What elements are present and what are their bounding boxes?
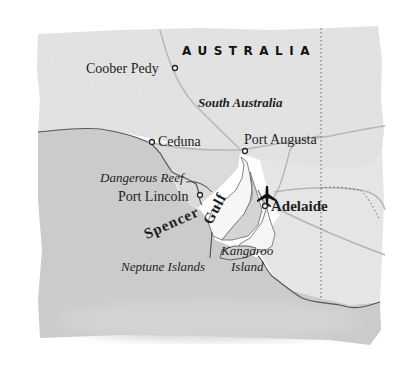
city-label-ceduna: Ceduna (158, 135, 201, 149)
circle-icon-port-augusta (243, 149, 248, 154)
feature-label-dangerous-reef: Dangerous Reef (100, 171, 184, 184)
state-label: South Australia (198, 96, 282, 109)
feature-label-neptune-islands: Neptune Islands (121, 260, 205, 273)
circle-icon-coober-pedy (173, 66, 178, 71)
city-label-port-lincoln: Port Lincoln (118, 190, 188, 204)
city-label-port-augusta: Port Augusta (244, 133, 317, 147)
feature-label-island: Island (231, 260, 264, 273)
circle-icon-port-lincoln (198, 193, 203, 198)
country-label: AUSTRALIA (182, 45, 316, 57)
circle-icon-ceduna (150, 140, 155, 145)
feature-label-kangaroo: Kangaroo (221, 244, 273, 257)
circle-icon-adelaide (263, 204, 268, 209)
city-label-adelaide: Adelaide (271, 199, 328, 214)
city-label-coober-pedy: Coober Pedy (86, 62, 159, 76)
